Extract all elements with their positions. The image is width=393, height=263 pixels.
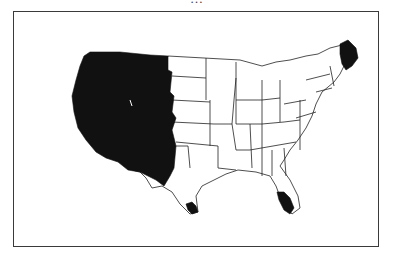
shaded-west — [72, 52, 176, 186]
us-map — [0, 0, 393, 263]
shaded-maine — [340, 40, 358, 70]
